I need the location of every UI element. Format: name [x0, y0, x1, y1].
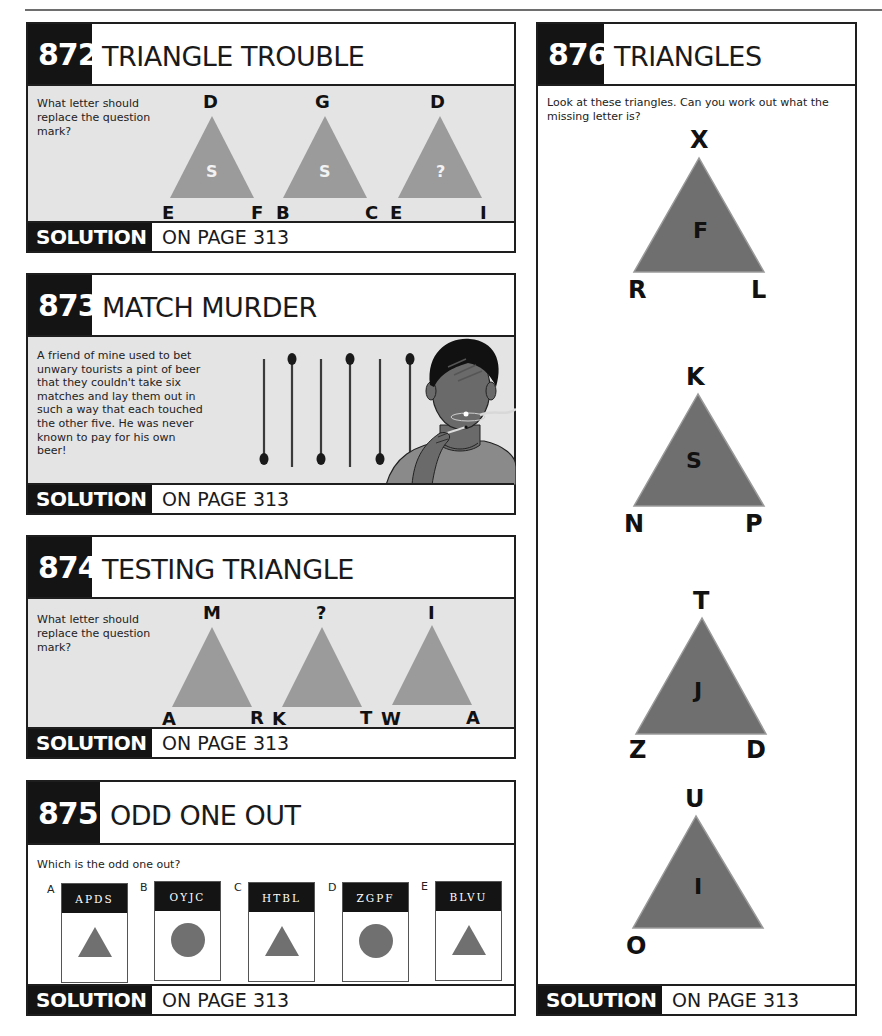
- card-code: BLVU: [436, 882, 501, 911]
- triangle-shape: [632, 156, 766, 274]
- vertex-right: T: [360, 709, 372, 727]
- vertex-left: K: [272, 710, 286, 728]
- question-text: What letter should replace the question …: [37, 97, 155, 139]
- solution-bar: SOLUTION ON PAGE 313: [28, 727, 514, 757]
- vertex-left: O: [626, 934, 646, 958]
- puzzle-872: 872 TRIANGLE TROUBLE What letter should …: [26, 22, 516, 253]
- vertex-top: X: [690, 128, 709, 152]
- puzzle-874: 874 TESTING TRIANGLE What letter should …: [26, 535, 516, 759]
- vertex-left: E: [390, 204, 402, 222]
- puzzle-873: 873 MATCH MURDER A friend of mine used t…: [26, 273, 516, 515]
- option-card-c[interactable]: HTBL: [248, 882, 315, 982]
- vertex-right: L: [751, 278, 766, 302]
- triangle-figure: [396, 114, 484, 200]
- puzzle-title: ODD ONE OUT: [100, 782, 514, 843]
- puzzle-body: A friend of mine used to bet unwary tour…: [28, 337, 514, 485]
- question-text: What letter should replace the question …: [37, 613, 155, 655]
- puzzle-number: 875: [28, 782, 100, 843]
- center-letter: S: [206, 164, 218, 180]
- triangle-shape: [634, 616, 768, 736]
- solution-page-link[interactable]: ON PAGE 313: [152, 485, 289, 513]
- triangle-figure: [632, 156, 766, 274]
- card-code: HTBL: [249, 883, 314, 912]
- triangle-icon: [77, 926, 113, 958]
- vertex-top: K: [686, 365, 705, 389]
- triangle-shape: [390, 623, 474, 707]
- option-card-d[interactable]: ZGPF: [342, 882, 409, 982]
- puzzle-title: TRIANGLES: [604, 24, 855, 84]
- vertex-top: G: [315, 93, 330, 111]
- triangle-shape: [281, 114, 369, 200]
- triangle-shape: [280, 625, 364, 709]
- option-letter: C: [234, 881, 242, 894]
- option-card-e[interactable]: BLVU: [435, 881, 502, 981]
- puzzle-title: TESTING TRIANGLE: [92, 537, 514, 597]
- option-card-b[interactable]: OYJC: [154, 881, 221, 981]
- solution-page-link[interactable]: ON PAGE 313: [152, 729, 289, 757]
- vertex-top: U: [685, 787, 705, 811]
- vertex-right: F: [251, 204, 263, 222]
- card-code: ZGPF: [343, 883, 408, 912]
- triangle-figure: [634, 616, 768, 736]
- vertex-left: W: [381, 710, 401, 728]
- vertex-top: ?: [316, 604, 326, 622]
- solution-bar: SOLUTION ON PAGE 313: [28, 221, 514, 251]
- question-text: A friend of mine used to bet unwary tour…: [37, 349, 207, 458]
- solution-label: SOLUTION: [538, 986, 662, 1014]
- option-letter: E: [421, 880, 428, 893]
- triangle-figure: [631, 814, 765, 930]
- vertex-left: Z: [629, 738, 646, 762]
- puzzle-number: 874: [28, 537, 92, 597]
- vertex-right: I: [480, 204, 487, 222]
- puzzle-number: 872: [28, 24, 92, 84]
- option-card-a[interactable]: APDS: [61, 883, 128, 983]
- question-text: Which is the odd one out?: [37, 858, 180, 872]
- puzzle-header: 874 TESTING TRIANGLE: [28, 537, 514, 599]
- solution-page-link[interactable]: ON PAGE 313: [152, 986, 289, 1014]
- option-letter: B: [140, 881, 148, 894]
- puzzle-body: What letter should replace the question …: [28, 86, 514, 223]
- vertex-right: P: [745, 512, 763, 536]
- solution-bar: SOLUTION ON PAGE 313: [28, 984, 514, 1014]
- puzzle-header: 875 ODD ONE OUT: [28, 782, 514, 845]
- match-illustration: [244, 337, 516, 485]
- solution-page-link[interactable]: ON PAGE 313: [152, 223, 289, 251]
- question-text: Look at these triangles. Can you work ou…: [547, 96, 847, 124]
- vertex-right: D: [746, 738, 766, 762]
- card-code: APDS: [62, 884, 127, 913]
- solution-label: SOLUTION: [28, 485, 152, 513]
- puzzle-header: 872 TRIANGLE TROUBLE: [28, 24, 514, 86]
- vertex-top: T: [693, 589, 709, 613]
- puzzle-header: 876 TRIANGLES: [538, 24, 855, 86]
- vertex-top: D: [430, 93, 445, 111]
- solution-page-link[interactable]: ON PAGE 313: [662, 986, 799, 1014]
- vertex-right: A: [466, 709, 480, 727]
- triangle-icon: [264, 925, 300, 957]
- center-letter: F: [693, 220, 708, 242]
- center-letter: I: [694, 876, 702, 898]
- puzzle-body: Which is the odd one out? A APDS B OYJC …: [28, 845, 514, 986]
- triangle-figure: [280, 625, 364, 709]
- option-letter: A: [47, 883, 55, 896]
- puzzle-number: 873: [28, 275, 92, 335]
- triangle-icon: [451, 924, 487, 956]
- vertex-left: N: [624, 512, 644, 536]
- puzzle-876: 876 TRIANGLES Look at these triangles. C…: [536, 22, 857, 1016]
- solution-label: SOLUTION: [28, 729, 152, 757]
- puzzle-body: What letter should replace the question …: [28, 599, 514, 729]
- vertex-top: M: [203, 604, 221, 622]
- center-letter: J: [694, 680, 702, 702]
- vertex-left: B: [276, 204, 290, 222]
- center-letter: ?: [436, 164, 445, 180]
- triangle-figure: [170, 625, 254, 709]
- vertex-right: R: [250, 709, 264, 727]
- vertex-top: D: [203, 93, 218, 111]
- top-rule: [25, 9, 882, 11]
- triangle-shape: [168, 114, 256, 200]
- circle-icon: [358, 923, 394, 959]
- triangle-figure: [390, 623, 474, 707]
- center-letter: S: [686, 450, 702, 472]
- triangle-figure: [168, 114, 256, 200]
- triangle-figure: [281, 114, 369, 200]
- solution-label: SOLUTION: [28, 223, 152, 251]
